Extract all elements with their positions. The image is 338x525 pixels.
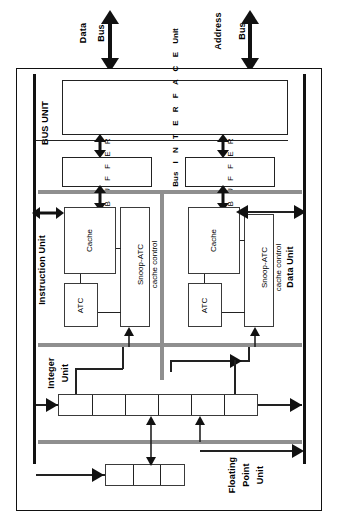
integer-stage-div-5	[224, 395, 225, 415]
data-bus-arrow	[98, 10, 122, 72]
data-buffer-box: B U F F E R	[62, 157, 152, 187]
biu-letter-3: E	[171, 120, 180, 125]
data-snoop-line2: cache control	[274, 213, 283, 323]
integer-feed-arrowhead	[228, 353, 244, 369]
data-unit-in-arrow	[236, 204, 252, 220]
data-snoop-line1: Snoop-ATC	[260, 213, 269, 323]
data-cache-box: Cache	[188, 207, 240, 274]
internal-bus-vertical	[160, 190, 164, 380]
buf0-letter-3: F	[102, 163, 111, 168]
bus-interface-unit-box: Bus I N T E R F A C E Unit	[62, 80, 288, 135]
data-cache-text: Cache	[210, 229, 219, 252]
instruction-atc-box: ATC	[64, 283, 98, 327]
fpu-pipeline	[105, 464, 185, 486]
bus-interface-unit-text: Bus I N T E R F A C E Unit	[171, 28, 180, 187]
bus-unit-tie-line	[36, 140, 288, 141]
fpu-label-line2: Point	[241, 445, 251, 505]
instr-cache-snoop-link	[116, 248, 121, 249]
instruction-unit-external-arrow	[32, 205, 64, 221]
address-bus-arrow	[238, 10, 262, 72]
address-bus-label-line1: Address	[213, 1, 223, 61]
fpu-stage-div-1	[133, 465, 134, 485]
biu-letter-4: R	[171, 106, 180, 112]
instruction-snoop-line1: Snoop-ATC	[136, 210, 145, 320]
buf1-letter-3: F	[225, 163, 234, 168]
integer-unit-label-line1: Integer	[46, 346, 56, 400]
biu-letter-6: A	[171, 80, 180, 85]
data-bus-label-line1: Data	[78, 10, 88, 56]
biu-letter-1: N	[171, 147, 180, 153]
buf0-letter-2: F	[102, 176, 111, 181]
biu-suffix: Unit	[171, 28, 180, 44]
instr-atc-snoop-link	[98, 312, 121, 313]
address-bus-label: Address Bus	[196, 8, 244, 64]
fpu-to-integer-arrow	[144, 416, 158, 442]
integer-feed-v1	[122, 347, 124, 369]
data-snoop-feed-arrow	[248, 327, 262, 347]
buf1-letter-2: F	[225, 176, 234, 181]
integer-feed-v3	[248, 347, 250, 361]
integer-feed-v2	[75, 368, 77, 394]
instruction-snoop-line2: cache control	[150, 210, 159, 320]
buf1-letter-5: R	[225, 138, 234, 144]
fpu-label-line3: Unit	[255, 445, 265, 505]
buf0-letter-5: R	[102, 138, 111, 144]
buf0-letter-4: E	[102, 151, 111, 156]
data-atc-box: ATC	[188, 283, 222, 327]
data-cache-snoop-link	[240, 240, 245, 241]
cpu-block-diagram: Data Bus Address Bus BUS UNIT Bus I N T …	[0, 0, 338, 525]
bus-unit-label: BUS UNIT	[30, 96, 60, 156]
fpu-in-arrow	[90, 467, 106, 483]
instr-snoop-feed-arrow	[122, 327, 136, 347]
integer-in-arrow	[44, 397, 60, 413]
integer-pipeline	[58, 394, 258, 416]
data-snoop-atc-box: Snoop-ATC cache control	[244, 214, 274, 327]
integer-feed-v4	[170, 360, 172, 372]
integer-stage-div-4	[191, 395, 192, 415]
instr-cache-atc-link	[80, 274, 81, 283]
instruction-cache-text: Cache	[86, 229, 95, 252]
instruction-unit-label: Instruction Unit	[30, 225, 54, 315]
instruction-snoop-atc-box: Snoop-ATC cache control	[120, 207, 150, 327]
data-atc-snoop-link	[222, 312, 245, 313]
data-atc-text: ATC	[201, 297, 210, 312]
internal-bus-lower	[38, 440, 302, 444]
data-cache-atc-link	[204, 274, 205, 283]
lower-bus-to-integer-arrow	[193, 416, 207, 442]
internal-bus-upper	[38, 190, 302, 194]
integer-out-arrow	[288, 397, 304, 413]
biu-letter-2: T	[171, 134, 180, 139]
integer-stage-div-2	[125, 395, 126, 415]
address-buffer-box: B U F F E R	[185, 157, 275, 187]
floating-point-unit-label: Floating Point Unit	[214, 452, 270, 508]
bus-unit-label-text: BUS UNIT	[40, 92, 50, 154]
biu-letter-0: I	[171, 161, 180, 163]
biu-prefix: Bus	[171, 172, 180, 187]
integer-to-fpu-arrow	[144, 442, 158, 466]
internal-bus-middle	[38, 343, 302, 347]
data-unit-out-arrow	[292, 204, 308, 220]
instruction-unit-label-text: Instruction Unit	[37, 230, 47, 310]
biu-letter-5: F	[171, 93, 180, 98]
lower-bus-right-arrow	[290, 443, 306, 459]
integer-feed-v5	[234, 360, 236, 394]
biu-letter-8: E	[171, 52, 180, 57]
integer-feed-h1	[75, 368, 123, 370]
data-unit-label-text: Data Unit	[285, 239, 295, 295]
instruction-atc-text: ATC	[77, 297, 86, 312]
integer-stage-div-1	[92, 395, 93, 415]
biu-letter-7: C	[171, 66, 180, 72]
fpu-label-line1: Floating	[227, 445, 237, 505]
instruction-cache-box: Cache	[64, 207, 116, 274]
buf1-letter-4: E	[225, 151, 234, 156]
fpu-stage-div-2	[160, 465, 161, 485]
integer-unit-label-line2: Unit	[60, 346, 70, 400]
integer-stage-div-3	[158, 395, 159, 415]
